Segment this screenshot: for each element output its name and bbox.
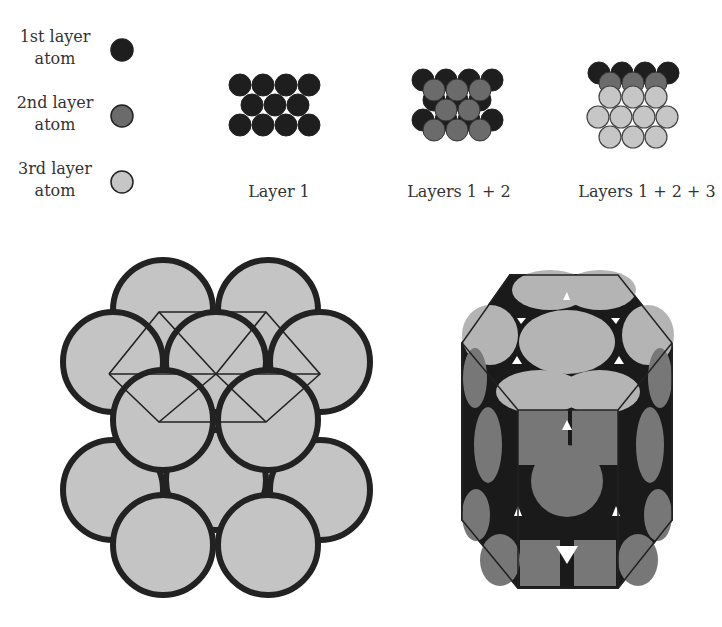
layers12-diagram bbox=[412, 69, 503, 141]
hcp-prism-diagram bbox=[462, 270, 674, 588]
atom-3rd-layer-icon bbox=[111, 171, 133, 193]
legend-atoms bbox=[111, 39, 133, 193]
layers123-diagram bbox=[587, 62, 679, 148]
ccp-cluster-diagram bbox=[63, 260, 370, 595]
layer1-diagram bbox=[229, 74, 320, 136]
atom-1st-layer-icon bbox=[111, 39, 133, 61]
diagram-canvas bbox=[0, 0, 722, 627]
atom-2nd-layer-icon bbox=[111, 105, 133, 127]
